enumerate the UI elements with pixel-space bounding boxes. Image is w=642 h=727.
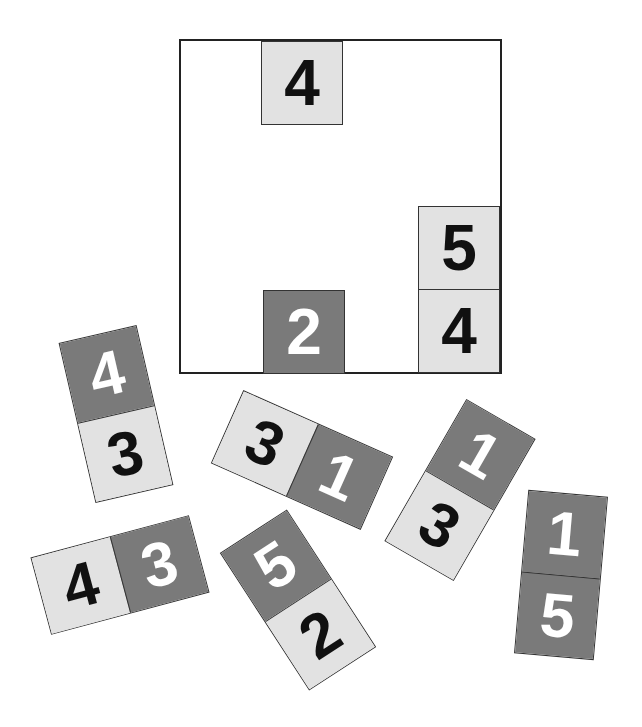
- board-tile[interactable]: 2: [263, 290, 345, 374]
- domino-piece[interactable]: 4 3: [59, 325, 174, 503]
- board-tile[interactable]: 4: [261, 41, 343, 125]
- domino-piece[interactable]: 5 2: [220, 509, 376, 690]
- puzzle-board: 4 5 4 2: [179, 39, 502, 374]
- board-tile[interactable]: 4: [418, 289, 500, 373]
- board-tile[interactable]: 5: [418, 206, 500, 290]
- domino-half: 5: [515, 571, 600, 659]
- domino-piece[interactable]: 1 5: [514, 490, 608, 660]
- domino-piece[interactable]: 3 1: [211, 390, 393, 530]
- domino-piece[interactable]: 4 3: [30, 515, 209, 635]
- domino-piece[interactable]: 1 3: [384, 399, 535, 581]
- domino-half: 3: [78, 405, 172, 502]
- domino-half: 1: [522, 491, 607, 578]
